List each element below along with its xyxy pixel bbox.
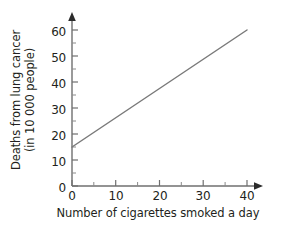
chart-figure: Deaths from lung cancer (in 10 000 peopl…: [0, 0, 281, 232]
y-axis-major-ticks: [72, 30, 78, 186]
plot-area: [0, 0, 281, 232]
x-axis-major-ticks: [72, 180, 247, 186]
trend-line-series-0: [72, 30, 247, 147]
x-axis-arrow-icon: [254, 182, 263, 190]
y-axis-arrow-icon: [68, 12, 76, 21]
